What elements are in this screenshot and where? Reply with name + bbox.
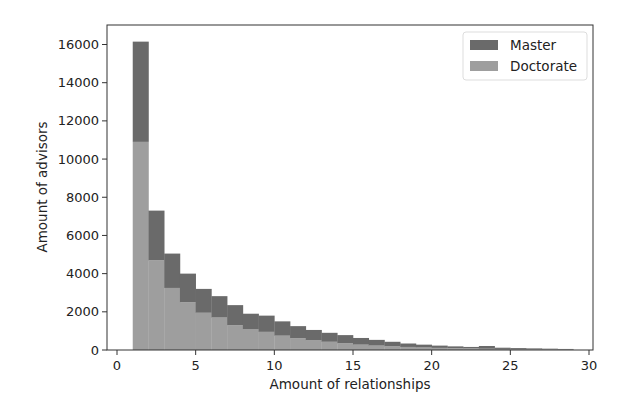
legend: Master Doctorate: [463, 32, 587, 80]
bar-master: [243, 314, 259, 329]
bar-doctorate: [259, 332, 275, 350]
legend-label-master: Master: [510, 37, 557, 53]
bar-doctorate: [306, 340, 322, 350]
y-tick-label: 0: [91, 343, 99, 358]
x-tick-label: 10: [266, 358, 283, 373]
y-tick-label: 4000: [66, 266, 99, 281]
bar-doctorate: [148, 260, 164, 350]
histogram-chart: 051015202530 020004000600080001000012000…: [0, 0, 626, 411]
legend-swatch-doctorate: [470, 61, 498, 71]
bar-master: [526, 348, 542, 349]
bar-master: [306, 330, 322, 340]
bar-master: [432, 346, 448, 348]
bar-master: [274, 321, 290, 335]
bar-master: [227, 305, 243, 325]
x-tick-label: 0: [113, 358, 121, 373]
bar-master: [211, 296, 227, 317]
bar-master: [196, 289, 212, 313]
y-axis-label: Amount of advisors: [34, 121, 50, 252]
bar-doctorate: [290, 338, 306, 350]
bar-master: [479, 346, 495, 349]
bar-master: [510, 348, 526, 349]
y-tick-label: 14000: [58, 75, 99, 90]
bar-master: [463, 347, 479, 349]
bar-master: [290, 326, 306, 338]
legend-swatch-master: [470, 40, 498, 50]
y-tick-label: 6000: [66, 228, 99, 243]
x-axis-label: Amount of relationships: [269, 376, 430, 392]
bar-master: [447, 346, 463, 348]
y-tick-label: 2000: [66, 304, 99, 319]
y-tick-label: 10000: [58, 152, 99, 167]
bar-doctorate: [164, 288, 180, 350]
bar-doctorate: [322, 342, 338, 350]
bar-doctorate: [353, 345, 369, 350]
bar-doctorate: [196, 313, 212, 350]
bar-master: [384, 342, 400, 347]
x-tick-label: 25: [502, 358, 519, 373]
bar-master: [495, 348, 511, 349]
y-tick-label: 12000: [58, 113, 99, 128]
bar-master: [353, 338, 369, 345]
y-tick-label: 8000: [66, 190, 99, 205]
bar-doctorate: [274, 336, 290, 350]
x-axis: 051015202530: [113, 350, 597, 373]
bar-doctorate: [337, 343, 353, 350]
bar-master: [180, 274, 196, 303]
bar-doctorate: [211, 318, 227, 350]
bar-master: [337, 335, 353, 343]
x-tick-label: 30: [581, 358, 598, 373]
x-tick-label: 5: [192, 358, 200, 373]
bar-master: [558, 349, 574, 350]
bar-doctorate: [369, 346, 385, 350]
bar-master: [542, 349, 558, 350]
bar-master: [369, 340, 385, 346]
bar-master: [148, 211, 164, 261]
bar-master: [164, 254, 180, 288]
bar-doctorate: [384, 346, 400, 350]
bar-master: [400, 344, 416, 347]
bar-master: [259, 316, 275, 332]
bar-master: [322, 333, 338, 342]
bar-master: [416, 345, 432, 348]
bar-doctorate: [180, 302, 196, 350]
bars-group: [133, 42, 574, 350]
legend-label-doctorate: Doctorate: [510, 58, 577, 74]
y-axis: 0200040006000800010000120001400016000: [58, 37, 107, 358]
bar-master: [133, 42, 149, 142]
x-tick-label: 20: [423, 358, 440, 373]
bar-doctorate: [133, 142, 149, 350]
x-tick-label: 15: [345, 358, 362, 373]
y-tick-label: 16000: [58, 37, 99, 52]
bar-doctorate: [227, 325, 243, 350]
bar-doctorate: [243, 329, 259, 350]
